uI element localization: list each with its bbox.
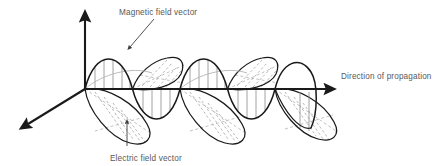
magnetic-leader-line [130, 19, 154, 47]
electric-lobe-2 [180, 89, 247, 144]
electric-lobe-upper-outline-1 [133, 57, 183, 89]
propagation-direction-label: Direction of propagation [341, 72, 432, 81]
magnetic-hatch-1 [95, 40, 130, 92]
electric-lobe-3 [275, 89, 337, 141]
electric-lobe-upper-1 [133, 57, 187, 89]
magnetic-field-label: Magnetic field vector [119, 8, 197, 17]
electric-hatch-3 [285, 92, 330, 141]
electric-lobe-upper-outline-2 [228, 57, 278, 89]
electric-axis [28, 89, 85, 124]
electric-guide-1b [95, 116, 148, 131]
electric-hatch-upper-1 [142, 60, 181, 87]
electric-guide-1a [85, 89, 152, 134]
magnetic-hatch-trough-2 [238, 86, 265, 138]
electric-lobe-outline-1 [85, 89, 150, 144]
electric-field-label: Electric field vector [110, 154, 182, 163]
electric-hatch-1 [95, 92, 145, 142]
electric-guide-2a [180, 89, 247, 134]
magnetic-hatch-trough-1 [143, 86, 170, 138]
em-wave-canvas: Magnetic field vector Electric field vec… [0, 0, 438, 166]
electric-lobe-outline-2 [180, 89, 245, 144]
magnetic-hatch-2 [190, 40, 225, 92]
em-wave-diagram: Magnetic field vector Electric field vec… [0, 0, 438, 166]
electric-hatch-2 [190, 92, 240, 142]
electric-lobe-upper-2 [228, 57, 282, 89]
electric-hatch-upper-2 [237, 60, 276, 87]
electric-lobe-1 [85, 89, 152, 144]
electric-guide-2b [190, 116, 243, 131]
